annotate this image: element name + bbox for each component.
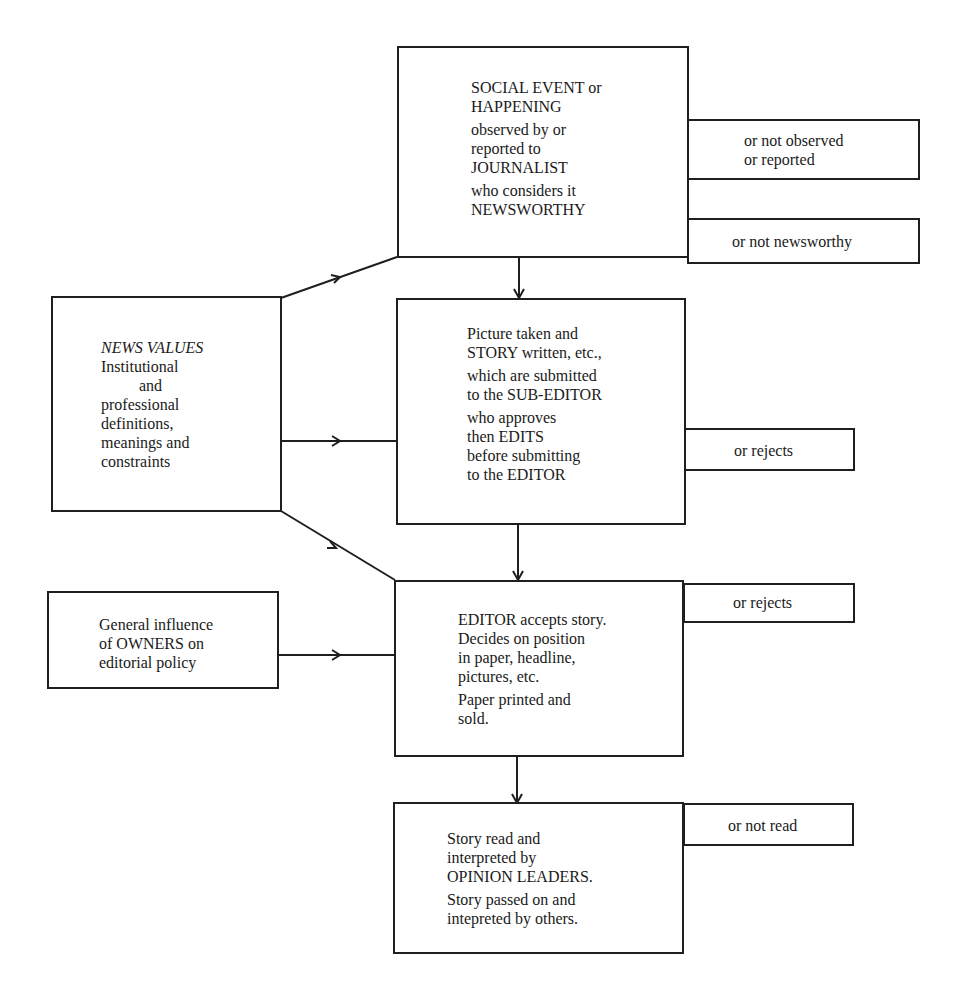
sub-editor-text-6: then EDITS: [467, 427, 602, 446]
not-newsworthy-text: or not newsworthy: [732, 232, 852, 251]
social-event-box: SOCIAL EVENT or HAPPENING observed by or…: [397, 46, 689, 258]
social-event-text-3: JOURNALIST: [471, 158, 602, 177]
news-values-text-2: and: [101, 376, 203, 395]
sub-editor-text-2: STORY written, etc.,: [467, 343, 602, 362]
sub-editor-box: Picture taken and STORY written, etc., w…: [396, 298, 686, 525]
sub-editor-text-3: which are submitted: [467, 366, 602, 385]
not-read-box: or not read: [683, 803, 854, 846]
opinion-text-5: intepreted by others.: [447, 909, 593, 928]
editor-text-2: Decides on position: [458, 629, 606, 648]
editor-text-5: Paper printed and: [458, 690, 606, 709]
news-values-box: NEWS VALUES Institutional and profession…: [51, 296, 282, 512]
opinion-text-3: OPINION LEADERS.: [447, 867, 593, 886]
social-event-title-2: HAPPENING: [471, 97, 602, 116]
social-event-text-2: reported to: [471, 139, 602, 158]
news-values-text-5: meanings and: [101, 433, 203, 452]
news-values-text-6: constraints: [101, 452, 203, 471]
editor-rejects-text: or rejects: [733, 593, 792, 612]
opinion-text-4: Story passed on and: [447, 890, 593, 909]
editor-text-1: EDITOR accepts story.: [458, 610, 606, 629]
social-event-title-1: SOCIAL EVENT or: [471, 78, 602, 97]
owners-text-3: editorial policy: [99, 653, 213, 672]
not-observed-box: or not observed or reported: [687, 119, 920, 180]
social-event-text-1: observed by or: [471, 120, 602, 139]
opinion-text-2: interpreted by: [447, 848, 593, 867]
sub-editor-text-8: to the EDITOR: [467, 465, 602, 484]
opinion-leaders-box: Story read and interpreted by OPINION LE…: [393, 802, 684, 954]
owners-text-2: of OWNERS on: [99, 634, 213, 653]
news-values-text-4: definitions,: [101, 414, 203, 433]
editor-text-4: pictures, etc.: [458, 667, 606, 686]
not-observed-text-2: or reported: [744, 150, 844, 169]
opinion-text-1: Story read and: [447, 829, 593, 848]
sub-editor-text-4: to the SUB-EDITOR: [467, 385, 602, 404]
news-values-text-1: Institutional: [101, 357, 203, 376]
editor-text-3: in paper, headline,: [458, 648, 606, 667]
not-read-text: or not read: [728, 816, 797, 835]
sub-editor-rejects-box: or rejects: [684, 428, 855, 471]
news-values-title: NEWS VALUES: [101, 338, 203, 357]
editor-box: EDITOR accepts story. Decides on positio…: [394, 580, 684, 757]
social-event-text-5: NEWSWORTHY: [471, 200, 602, 219]
news-values-text-3: professional: [101, 395, 203, 414]
social-event-text-4: who considers it: [471, 181, 602, 200]
owners-box: General influence of OWNERS on editorial…: [47, 591, 279, 689]
not-newsworthy-box: or not newsworthy: [687, 218, 920, 264]
owners-text-1: General influence: [99, 615, 213, 634]
sub-editor-text-5: who approves: [467, 408, 602, 427]
editor-rejects-box: or rejects: [683, 583, 855, 623]
editor-text-6: sold.: [458, 709, 606, 728]
not-observed-text-1: or not observed: [744, 131, 844, 150]
sub-editor-text-7: before submitting: [467, 446, 602, 465]
sub-editor-rejects-text: or rejects: [734, 441, 793, 460]
sub-editor-text-1: Picture taken and: [467, 324, 602, 343]
